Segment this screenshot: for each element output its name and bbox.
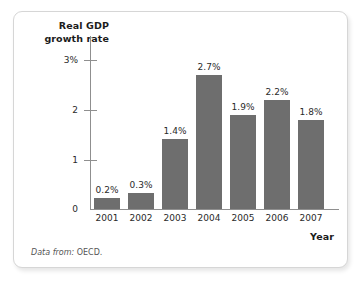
bar-value-2005: 1.9%: [220, 103, 266, 112]
figure-card: Real GDP growth rate 3% 2 1 0 0.2% 2001 …: [13, 11, 348, 268]
y-tick-label-3: 3%: [30, 56, 78, 65]
y-axis-line: [90, 36, 91, 210]
bar-chart: Real GDP growth rate 3% 2 1 0 0.2% 2001 …: [14, 12, 347, 267]
bar-2005: [230, 115, 256, 209]
bar-2002: [128, 193, 154, 209]
bar-value-2007: 1.8%: [288, 108, 334, 117]
y-tick-label-0: 0: [30, 205, 78, 214]
x-axis-title: Year: [310, 231, 334, 242]
bar-value-2004: 2.7%: [186, 63, 232, 72]
y-tick-mark-1: [84, 160, 97, 161]
bar-2006: [264, 100, 290, 209]
y-tick-label-2: 2: [30, 106, 78, 115]
source-note-value: OECD.: [77, 248, 103, 257]
source-note: Data from: OECD.: [31, 248, 102, 257]
bar-value-2002: 0.3%: [118, 181, 164, 190]
bar-value-2006: 2.2%: [254, 88, 300, 97]
x-tick-label-2007: 2007: [288, 214, 334, 223]
bar-value-2003: 1.4%: [152, 127, 198, 136]
y-tick-mark-2: [84, 110, 97, 111]
bar-2007: [298, 120, 324, 209]
y-tick-label-1: 1: [30, 156, 78, 165]
bar-2001: [94, 198, 120, 209]
x-axis-line: [90, 209, 339, 210]
source-note-label: Data from:: [31, 248, 74, 257]
y-tick-mark-3: [84, 60, 97, 61]
bar-2004: [196, 75, 222, 209]
bar-2003: [162, 139, 188, 209]
y-axis-title: Real GDP growth rate: [20, 20, 109, 45]
